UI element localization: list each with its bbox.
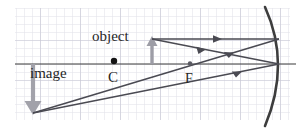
image-label: image	[30, 66, 67, 81]
center-of-curvature-label: C	[108, 70, 118, 85]
focal-point-marker	[188, 61, 192, 65]
center-of-curvature-point	[111, 58, 117, 64]
focal-point-label: F	[185, 72, 193, 86]
ray-diagram-figure: object image C F	[0, 0, 302, 133]
object-label: object	[92, 29, 129, 44]
